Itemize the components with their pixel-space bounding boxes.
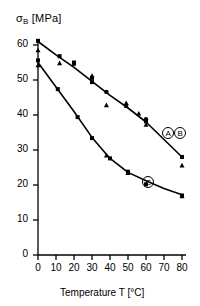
data-series — [36, 39, 185, 198]
data-point-square — [56, 87, 60, 91]
data-point-circle — [104, 90, 108, 94]
data-point-square — [108, 156, 112, 160]
y-tick-label: 10 — [6, 214, 28, 224]
y-tick-label: 0 — [6, 249, 28, 259]
x-tick-label: 40 — [102, 263, 118, 273]
series-line — [38, 63, 182, 195]
data-point-square — [36, 39, 40, 43]
x-axis-ticks — [38, 255, 182, 260]
y-tick-label: 20 — [6, 179, 28, 189]
y-tick-label: 40 — [6, 109, 28, 119]
axes — [38, 40, 186, 255]
data-point-triangle — [136, 111, 141, 116]
series-badge-a: A — [162, 127, 174, 139]
y-axis-ticks — [33, 45, 38, 255]
x-tick-label: 10 — [48, 263, 64, 273]
data-point-square — [180, 155, 184, 159]
data-point-circle — [72, 62, 76, 66]
x-tick-label: 30 — [84, 263, 100, 273]
data-point-square — [58, 54, 62, 58]
data-point-triangle — [90, 73, 95, 78]
data-point-square — [90, 136, 94, 140]
y-tick-label: 60 — [6, 39, 28, 49]
x-tick-label: 20 — [66, 263, 82, 273]
y-tick-label: 30 — [6, 144, 28, 154]
plot-canvas — [0, 0, 200, 306]
x-tick-label: 60 — [138, 263, 154, 273]
x-tick-label: 0 — [30, 263, 46, 273]
data-point-triangle — [124, 101, 129, 106]
y-tick-label: 50 — [6, 74, 28, 84]
x-tick-label: 70 — [156, 263, 172, 273]
data-point-triangle — [180, 163, 185, 168]
series-line — [38, 42, 182, 158]
data-point-triangle — [57, 61, 62, 66]
chart-figure: σB [MPa] Temperature T [°C] 010203040506… — [0, 0, 200, 306]
series-badge-c: C — [142, 176, 154, 188]
data-point-circle — [144, 117, 148, 121]
data-point-square — [76, 115, 80, 119]
data-point-square — [90, 80, 94, 84]
data-point-square — [36, 58, 40, 62]
series-badge-b: B — [174, 127, 186, 139]
x-tick-label: 80 — [174, 263, 190, 273]
x-tick-label: 50 — [120, 263, 136, 273]
data-point-triangle — [104, 103, 109, 108]
data-point-triangle — [36, 48, 41, 53]
